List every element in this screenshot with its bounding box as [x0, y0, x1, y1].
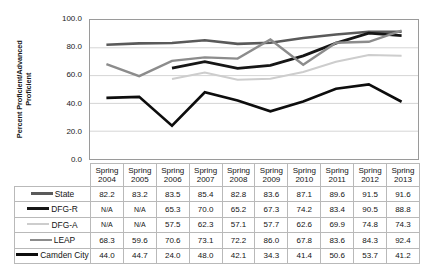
- legend-series-name: State: [55, 190, 75, 199]
- column-header-spring-2009: Spring2009: [255, 164, 288, 187]
- column-header-year: 2013: [387, 175, 419, 184]
- chart-figure: Percent Proficient/Advanced Proficient 1…: [0, 0, 422, 270]
- table-row: DFG-AN/AN/A57.562.357.157.762.669.974.87…: [15, 217, 420, 232]
- data-cell: 24.0: [156, 248, 189, 263]
- column-header-spring-2005: Spring2005: [123, 164, 156, 187]
- data-cell: 50.6: [321, 248, 354, 263]
- data-cell: 65.2: [222, 202, 255, 217]
- data-cell: 73.1: [189, 233, 222, 248]
- data-cell: 83.6: [255, 187, 288, 202]
- data-cell: 67.3: [255, 202, 288, 217]
- gridlines: [90, 48, 418, 131]
- column-header-year: 2009: [255, 175, 287, 184]
- data-cell: 41.2: [387, 248, 420, 263]
- data-cell: 83.4: [321, 202, 354, 217]
- column-header-spring-2010: Spring2010: [288, 164, 321, 187]
- table-row: State82.283.283.585.482.883.687.189.691.…: [15, 187, 420, 202]
- table-row: DFG-RN/AN/A65.370.065.267.374.283.490.58…: [15, 202, 420, 217]
- y-axis-title-line1: Percent Proficient/Advanced: [15, 40, 24, 138]
- column-header-season: Spring: [288, 166, 320, 175]
- column-header-spring-2007: Spring2007: [189, 164, 222, 187]
- data-cell: 91.5: [354, 187, 387, 202]
- column-header-spring-2012: Spring2012: [354, 164, 387, 187]
- data-cell-na: N/A: [123, 202, 156, 217]
- data-cell-na: N/A: [91, 217, 124, 232]
- data-cell: 91.6: [387, 187, 420, 202]
- data-cell: 62.6: [288, 217, 321, 232]
- data-cell: 90.5: [354, 202, 387, 217]
- data-cell: 70.0: [189, 202, 222, 217]
- table-header: Spring2004Spring2005Spring2006Spring2007…: [15, 164, 420, 187]
- legend-series-name: DFG-R: [51, 205, 78, 214]
- column-header-year: 2007: [190, 175, 222, 184]
- series-lines: [106, 31, 401, 126]
- data-cell: 57.1: [222, 217, 255, 232]
- data-cell: 48.0: [189, 248, 222, 263]
- plot-svg: [90, 20, 418, 159]
- data-cell: 65.3: [156, 202, 189, 217]
- data-cell: 86.0: [255, 233, 288, 248]
- legend-series-name: Camden City: [40, 251, 88, 260]
- y-axis-tick-labels: 100.080.060.040.020.00.0: [42, 15, 86, 165]
- column-header-season: Spring: [124, 166, 156, 175]
- data-cell: 89.6: [321, 187, 354, 202]
- series-line-camden-city: [106, 84, 401, 125]
- column-header-season: Spring: [157, 166, 189, 175]
- legend-cell-camden-city: Camden City: [15, 248, 91, 263]
- column-header-season: Spring: [91, 166, 123, 175]
- data-cell: 34.3: [255, 248, 288, 263]
- data-cell: 83.6: [321, 233, 354, 248]
- data-cell: 70.6: [156, 233, 189, 248]
- y-axis-title: Percent Proficient/Advanced Proficient: [12, 18, 36, 160]
- data-cell: 82.2: [91, 187, 124, 202]
- data-cell: 59.6: [123, 233, 156, 248]
- data-cell: 92.4: [387, 233, 420, 248]
- column-header-year: 2011: [321, 175, 353, 184]
- table-row: LEAP68.359.670.673.172.286.067.883.684.3…: [15, 233, 420, 248]
- y-axis-tick-label: 80.0: [66, 43, 82, 51]
- column-header-season: Spring: [255, 166, 287, 175]
- data-cell: 67.8: [288, 233, 321, 248]
- data-cell: 41.4: [288, 248, 321, 263]
- column-header-year: 2005: [124, 175, 156, 184]
- data-cell: 53.7: [354, 248, 387, 263]
- legend-cell-state: State: [15, 187, 91, 202]
- column-header-season: Spring: [190, 166, 222, 175]
- legend-swatch-icon: [27, 223, 49, 225]
- y-axis-tick-label: 100.0: [62, 15, 82, 23]
- column-header-year: 2012: [354, 175, 386, 184]
- table-row: Camden City44.044.724.048.042.134.341.45…: [15, 248, 420, 263]
- data-cell: 88.8: [387, 202, 420, 217]
- legend-cell-dfg-a: DFG-A: [15, 217, 91, 232]
- legend-header-cell: [15, 164, 91, 187]
- legend-series-name: DFG-A: [51, 221, 77, 230]
- column-header-year: 2008: [223, 175, 255, 184]
- y-axis-title-line2: Proficient: [24, 72, 33, 105]
- y-axis-tick-label: 20.0: [66, 128, 82, 136]
- data-cell: 57.5: [156, 217, 189, 232]
- data-cell: 72.2: [222, 233, 255, 248]
- y-axis-tick-label: 40.0: [66, 100, 82, 108]
- data-cell: 57.7: [255, 217, 288, 232]
- legend-swatch-icon: [31, 192, 53, 195]
- data-cell: 62.3: [189, 217, 222, 232]
- data-cell: 82.8: [222, 187, 255, 202]
- legend-cell-leap: LEAP: [15, 233, 91, 248]
- data-cell: 68.3: [91, 233, 124, 248]
- column-header-season: Spring: [321, 166, 353, 175]
- table-header-row: Spring2004Spring2005Spring2006Spring2007…: [15, 164, 420, 187]
- data-cell: 83.5: [156, 187, 189, 202]
- data-cell: 74.8: [354, 217, 387, 232]
- column-header-spring-2006: Spring2006: [156, 164, 189, 187]
- column-header-season: Spring: [354, 166, 386, 175]
- data-cell: 42.1: [222, 248, 255, 263]
- data-cell: 44.7: [123, 248, 156, 263]
- column-header-spring-2011: Spring2011: [321, 164, 354, 187]
- column-header-year: 2010: [288, 175, 320, 184]
- legend-series-name: LEAP: [54, 236, 75, 245]
- table-body: State82.283.283.585.482.883.687.189.691.…: [15, 187, 420, 264]
- column-header-spring-2004: Spring2004: [91, 164, 124, 187]
- data-cell: 87.1: [288, 187, 321, 202]
- data-cell: 83.2: [123, 187, 156, 202]
- column-header-year: 2004: [91, 175, 123, 184]
